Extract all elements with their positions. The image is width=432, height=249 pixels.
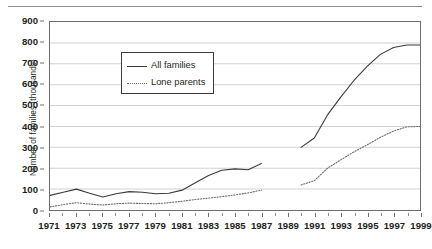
legend-line-dotted-icon — [127, 78, 147, 87]
y-tick-label: 700 — [22, 58, 38, 68]
y-tick-label: 900 — [22, 16, 38, 26]
y-tick-label: 500 — [22, 101, 38, 111]
chart-canvas — [50, 22, 420, 210]
x-tick-mark — [288, 213, 289, 217]
x-tick-mark — [394, 213, 395, 217]
x-tick-label: 1989 — [277, 221, 298, 231]
x-tick-label: 1975 — [91, 221, 112, 231]
plot-area: All families Lone parents — [49, 21, 421, 211]
y-tick-label: 200 — [22, 164, 38, 174]
legend-item-lone-parents: Lone parents — [127, 74, 208, 91]
legend-line-solid-icon — [127, 61, 147, 70]
x-tick-label: 1983 — [198, 221, 219, 231]
x-tick-mark — [208, 213, 209, 217]
y-tick-label: 600 — [22, 80, 38, 90]
x-tick-mark — [76, 213, 77, 217]
legend-label-lone-parents: Lone parents — [151, 78, 205, 87]
x-tick-mark — [235, 213, 236, 217]
x-tick-label: 1985 — [224, 221, 245, 231]
x-tick-label: 1971 — [38, 221, 59, 231]
x-tick-label: 1981 — [171, 221, 192, 231]
x-tick-mark-minor — [275, 213, 276, 216]
x-tick-mark-minor — [195, 213, 196, 216]
y-tick-mark — [40, 211, 44, 212]
x-axis-ticks: 1971197319751977197919811983198519871989… — [49, 213, 421, 239]
x-tick-label: 1973 — [65, 221, 86, 231]
y-tick-label: 0 — [33, 206, 38, 216]
y-tick-mark — [40, 21, 44, 22]
y-tick-mark — [40, 63, 44, 64]
x-tick-mark — [129, 213, 130, 217]
y-tick-mark — [40, 105, 44, 106]
x-tick-mark — [155, 213, 156, 217]
x-tick-mark-minor — [62, 213, 63, 216]
series-line-all-families — [301, 45, 420, 147]
x-tick-mark — [315, 213, 316, 217]
series-line-lone-parents — [50, 190, 261, 207]
legend-item-all-families: All families — [127, 57, 208, 74]
chart-legend: All families Lone parents — [121, 52, 214, 94]
top-divider — [8, 6, 422, 7]
x-tick-mark-minor — [169, 213, 170, 216]
x-tick-mark — [368, 213, 369, 217]
x-tick-mark-minor — [301, 213, 302, 216]
x-tick-label: 1987 — [251, 221, 272, 231]
y-tick-label: 800 — [22, 37, 38, 47]
x-tick-mark-minor — [222, 213, 223, 216]
x-tick-label: 1979 — [145, 221, 166, 231]
x-tick-mark — [182, 213, 183, 217]
y-tick-mark — [40, 189, 44, 190]
x-tick-mark-minor — [355, 213, 356, 216]
x-tick-mark-minor — [248, 213, 249, 216]
x-tick-label: 1991 — [304, 221, 325, 231]
x-tick-mark — [102, 213, 103, 217]
x-tick-mark — [49, 213, 50, 217]
x-tick-label: 1999 — [410, 221, 431, 231]
y-tick-label: 400 — [22, 122, 38, 132]
y-tick-mark — [40, 126, 44, 127]
y-tick-mark — [40, 168, 44, 169]
x-tick-label: 1995 — [357, 221, 378, 231]
y-axis-ticks: 0100200300400500600700800900 — [0, 21, 44, 211]
x-tick-mark-minor — [328, 213, 329, 216]
y-tick-label: 100 — [22, 185, 38, 195]
x-tick-mark-minor — [89, 213, 90, 216]
x-tick-mark-minor — [142, 213, 143, 216]
x-tick-mark — [421, 213, 422, 217]
y-tick-mark — [40, 84, 44, 85]
y-tick-label: 300 — [22, 143, 38, 153]
legend-label-all-families: All families — [151, 61, 195, 70]
x-tick-mark-minor — [115, 213, 116, 216]
y-tick-mark — [40, 147, 44, 148]
x-tick-mark-minor — [381, 213, 382, 216]
x-tick-label: 1997 — [384, 221, 405, 231]
x-tick-mark — [341, 213, 342, 217]
x-tick-mark — [262, 213, 263, 217]
x-tick-label: 1993 — [331, 221, 352, 231]
x-tick-mark-minor — [408, 213, 409, 216]
x-tick-label: 1977 — [118, 221, 139, 231]
y-tick-mark — [40, 42, 44, 43]
series-line-lone-parents — [301, 126, 420, 184]
